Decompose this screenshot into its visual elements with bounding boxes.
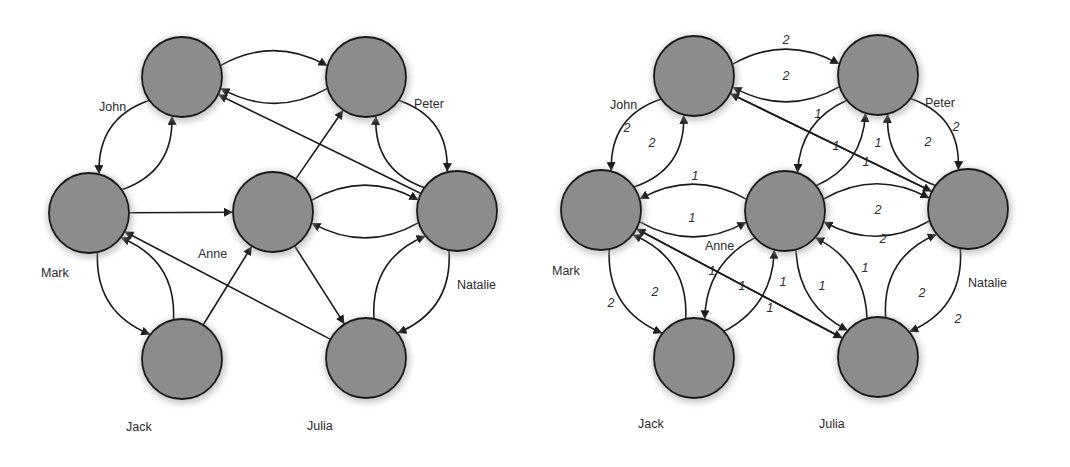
edge-weight-label: 2 [874, 203, 882, 217]
edge-weight-label: 1 [692, 169, 699, 183]
node-mark: Mark [41, 172, 133, 280]
edge-weight-label: 2 [648, 136, 656, 150]
node-circle [654, 36, 734, 116]
weighted-graph: 222211112211222211111122JohnPeterMarkAnn… [552, 33, 1012, 431]
node-circle [838, 317, 918, 397]
edge-weight-label: 1 [833, 139, 840, 153]
node-circle [654, 318, 734, 398]
edge-mark-to-john [634, 116, 684, 187]
edge-weight-label: 2 [782, 33, 790, 47]
edge-mark-to-anne [129, 212, 232, 213]
edge-weight-label: 2 [607, 296, 615, 310]
edge-weight-label: 2 [782, 69, 790, 83]
edge-weight-label: 1 [780, 275, 787, 289]
node-label: John [99, 100, 126, 114]
node-label: John [610, 98, 637, 112]
node-circle [928, 169, 1008, 249]
edge-anne-to-mark [640, 184, 746, 199]
node-label: Jack [126, 420, 152, 434]
edge-jack-to-mark [122, 238, 174, 320]
edge-weight-label: 2 [623, 121, 631, 135]
node-label: Jack [638, 417, 664, 431]
edge-weight-label: 2 [954, 312, 962, 326]
edge-mark-to-jack [97, 252, 149, 334]
node-john: John [610, 35, 738, 121]
edge-anne-to-peter [296, 111, 343, 179]
node-label: Natalie [457, 278, 496, 292]
edge-natalie-to-peter [888, 115, 936, 186]
edge-weight-label: 2 [952, 120, 960, 134]
node-circle [326, 37, 406, 117]
node-label: Natalie [968, 276, 1007, 290]
node-circle [838, 35, 918, 115]
nodes: JohnPeterMarkAnneNatalieJackJulia [41, 36, 501, 434]
node-natalie: Natalie [926, 168, 1012, 290]
edge-natalie-to-peter [376, 117, 425, 188]
edge-john-to-peter [732, 49, 838, 64]
edge-natalie-to-anne [312, 223, 418, 238]
node-peter: Peter [836, 34, 955, 120]
node-anne: Anne [705, 170, 829, 256]
edge-john-to-peter [220, 51, 326, 66]
edge-weight-label: 1 [767, 301, 774, 315]
node-circle [142, 37, 222, 117]
node-anne: Anne [198, 171, 317, 261]
node-john: John [99, 36, 226, 122]
edge-weight-label: 1 [815, 107, 822, 121]
node-label: Anne [705, 239, 734, 253]
node-natalie: Natalie [415, 170, 501, 292]
edge-weight-label: 1 [875, 136, 882, 150]
edge-peter-to-john [733, 87, 839, 102]
node-circle [745, 171, 825, 251]
edge-julia-to-natalie [885, 235, 936, 318]
edge-jack-to-mark [633, 235, 685, 319]
node-jack: Jack [126, 318, 226, 434]
node-peter: Peter [324, 36, 444, 122]
node-label: Mark [552, 264, 581, 278]
edge-natalie-to-anne [824, 221, 929, 237]
edge-weight-label: 1 [863, 155, 870, 169]
edge-anne-to-natalie [823, 184, 928, 200]
unweighted-graph: JohnPeterMarkAnneNatalieJackJulia [41, 36, 501, 434]
edge-natalie-to-julia [398, 250, 449, 333]
edge-anne-to-julia [295, 246, 345, 324]
edge-julia-to-natalie [374, 236, 425, 318]
edge-peter-to-john [221, 88, 327, 103]
node-label: Peter [414, 97, 444, 111]
node-label: Mark [41, 266, 70, 280]
node-circle [561, 170, 641, 250]
network-diagrams: JohnPeterMarkAnneNatalieJackJulia 222211… [0, 0, 1070, 467]
edge-weight-label: 2 [924, 135, 932, 149]
edge-weight-label: 2 [918, 286, 926, 300]
node-label: Anne [198, 247, 227, 261]
edge-weight-label: 2 [651, 285, 659, 299]
node-label: Julia [307, 419, 333, 433]
node-circle [142, 319, 222, 399]
node-label: Julia [819, 417, 845, 431]
edge-mark-to-john [122, 117, 172, 190]
node-circle [233, 172, 313, 252]
edge-anne-to-peter [816, 114, 865, 186]
node-label: Peter [925, 96, 955, 110]
node-circle [326, 318, 406, 398]
edge-weight-label: 1 [689, 211, 696, 225]
node-mark: Mark [552, 169, 645, 278]
edge-jack-to-anne [724, 251, 774, 332]
edge-weight-label: 1 [862, 261, 869, 275]
edge-peter-to-anne [798, 100, 847, 172]
node-jack: Jack [638, 317, 738, 431]
node-circle [417, 171, 497, 251]
node-circle [49, 173, 129, 253]
edge-anne-to-natalie [311, 185, 417, 200]
edge-weight-label: 1 [819, 279, 826, 293]
nodes: JohnPeterMarkAnneNatalieJackJulia [552, 34, 1012, 431]
edge-weight-label: 2 [879, 232, 887, 246]
